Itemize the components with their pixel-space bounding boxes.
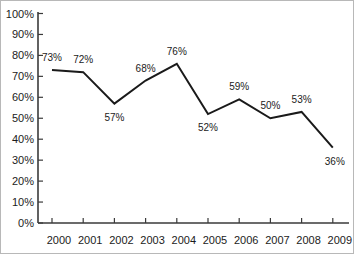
y-axis-tick-labels: 0%10%20%30%40%50%60%70%80%90%100% [6,8,34,230]
y-axis-tick-label: 10% [12,196,34,208]
data-point-label: 76% [167,46,187,57]
data-point-label: 36% [325,156,345,167]
y-axis-tick-label: 80% [12,49,34,61]
data-point-label: 59% [229,81,249,92]
data-point-labels: 73%72%57%68%76%52%59%50%53%36% [42,46,345,167]
y-axis-tick-label: 90% [12,28,34,40]
x-axis-tick-label: 2002 [109,234,133,246]
y-axis-tick-label: 70% [12,70,34,82]
data-point-label: 68% [136,63,156,74]
y-axis-tick-label: 20% [12,175,34,187]
chart-canvas: 0%10%20%30%40%50%60%70%80%90%100% 200020… [1,1,354,254]
y-axis-tick-label: 100% [6,8,34,20]
x-axis-tick-labels: 2000200120022003200420052006200720082009 [47,234,352,246]
x-axis-tick-label: 2005 [203,234,227,246]
data-point-label: 52% [198,122,218,133]
data-point-label: 72% [73,54,93,65]
y-axis-tick-label: 60% [12,91,34,103]
data-point-label: 53% [292,94,312,105]
data-point-label: 57% [104,112,124,123]
y-axis-tick-label: 30% [12,154,34,166]
line-chart-figure: 0%10%20%30%40%50%60%70%80%90%100% 200020… [0,0,354,254]
x-axis-tick-label: 2007 [265,234,289,246]
x-axis-tick-label: 2001 [78,234,102,246]
data-series-line [52,64,333,148]
y-axis-tick-label: 40% [12,133,34,145]
x-axis-tick-label: 2004 [172,234,196,246]
y-axis-tick-label: 50% [12,112,34,124]
data-point-label: 50% [260,100,280,111]
x-axis-tick-label: 2003 [140,234,164,246]
y-axis-tick-label: 0% [18,217,34,229]
x-axis-tick-label: 2000 [47,234,71,246]
x-axis-tick-label: 2009 [328,234,352,246]
data-point-label: 73% [42,52,62,63]
x-axis-tick-label: 2006 [234,234,258,246]
x-axis-tick-label: 2008 [296,234,320,246]
